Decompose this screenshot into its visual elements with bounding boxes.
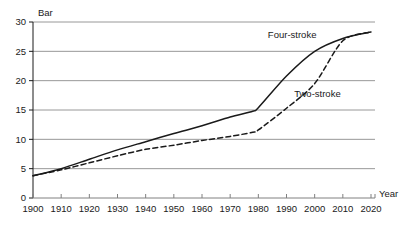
line-chart: 051015202530 190019101920193019401950196… [0, 0, 401, 233]
x-tick-label: 2010 [332, 203, 353, 214]
series-paths [33, 32, 371, 176]
series-line-1 [33, 32, 371, 176]
series-labels: Four-strokeTwo-stroke [268, 29, 341, 98]
y-tick-label: 25 [15, 46, 26, 57]
x-axis [33, 194, 375, 198]
y-tick-label: 10 [15, 134, 26, 145]
y-tick-label: 30 [15, 16, 26, 27]
x-tick-label: 1920 [79, 203, 100, 214]
x-tick-label: 1900 [22, 203, 43, 214]
y-tick-labels: 051015202530 [15, 16, 26, 203]
x-tick-label: 1930 [107, 203, 128, 214]
series-line-2 [33, 32, 371, 176]
series-label-1: Four-stroke [268, 29, 317, 40]
x-tick-label: 2000 [304, 203, 325, 214]
x-tick-labels: 1900191019201930194019501960197019801990… [22, 203, 381, 214]
x-tick-label: 1970 [220, 203, 241, 214]
y-axis-unit-label: Bar [38, 7, 53, 18]
y-tick-label: 5 [21, 163, 26, 174]
x-tick-label: 1910 [51, 203, 72, 214]
y-axis [29, 22, 33, 198]
x-tick-label: 1940 [135, 203, 156, 214]
y-tick-label: 20 [15, 75, 26, 86]
x-tick-label: 2020 [360, 203, 381, 214]
x-tick-label: 1980 [248, 203, 269, 214]
x-axis-unit-label: Year [379, 188, 398, 199]
chart-container: 051015202530 190019101920193019401950196… [0, 0, 401, 233]
series-label-2: Two-stroke [294, 88, 340, 99]
x-tick-label: 1950 [163, 203, 184, 214]
y-tick-label: 15 [15, 104, 26, 115]
x-tick-label: 1990 [276, 203, 297, 214]
y-tick-label: 0 [21, 192, 26, 203]
x-tick-label: 1960 [191, 203, 212, 214]
